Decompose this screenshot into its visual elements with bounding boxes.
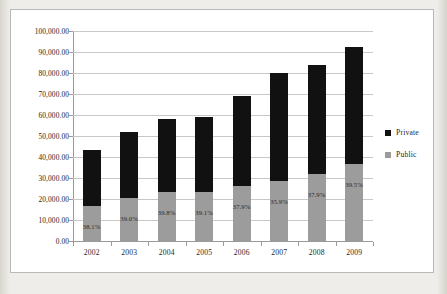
x-axis-tick (223, 242, 224, 246)
gridline (73, 52, 373, 53)
x-axis-tick (186, 242, 187, 246)
gridline (73, 94, 373, 95)
x-axis-tick (73, 242, 74, 246)
bar-group[interactable] (120, 31, 138, 241)
bar-data-label: 39.0% (120, 215, 138, 222)
y-axis-label: 70,000.00 (11, 90, 69, 99)
x-axis-tick (298, 242, 299, 246)
bar-segment-public[interactable] (345, 164, 363, 241)
x-axis-tick (261, 242, 262, 246)
legend-swatch-icon (385, 130, 391, 136)
bar-segment-private[interactable] (120, 132, 138, 199)
bar-segment-private[interactable] (308, 65, 326, 174)
x-axis-tick (111, 242, 112, 246)
y-axis-tick (69, 199, 73, 200)
x-axis-ticks (73, 242, 373, 247)
plot-area: 38.1%39.0%39.8%39.1%37.9%35.9%37.9%39.5% (73, 31, 373, 241)
y-axis-label: 10,000.00 (11, 216, 69, 225)
y-axis-tick (69, 52, 73, 53)
x-axis-tick-labels: 20022003200420052006200720082009 (73, 248, 373, 262)
legend-label: Private (396, 128, 419, 137)
gridline (73, 199, 373, 200)
legend-label: Public (396, 150, 417, 159)
gridline (73, 157, 373, 158)
bar-segment-private[interactable] (83, 150, 101, 207)
gridline (73, 73, 373, 74)
bar-segment-private[interactable] (233, 96, 251, 186)
bar-segment-private[interactable] (195, 117, 213, 192)
y-axis-tick-labels: 100,000.0090,000.0080,000.0070,000.0060,… (11, 31, 69, 241)
bar-data-label: 39.8% (158, 209, 176, 216)
x-axis-label-2007: 2007 (259, 248, 299, 257)
bar-data-label: 35.9% (270, 198, 288, 205)
legend-item-public[interactable]: Public (385, 150, 433, 159)
bar-segment-private[interactable] (158, 119, 176, 192)
bar-data-label: 39.5% (345, 181, 363, 188)
gridline (73, 31, 373, 32)
bar-group[interactable] (345, 31, 363, 241)
x-axis-label-2008: 2008 (297, 248, 337, 257)
legend-swatch-icon (385, 152, 391, 158)
chart-figure: 100,000.0090,000.0080,000.0070,000.0060,… (10, 9, 434, 273)
gridline (73, 115, 373, 116)
y-axis-label: 60,000.00 (11, 111, 69, 120)
y-axis-tick (69, 157, 73, 158)
bar-group[interactable] (83, 31, 101, 241)
legend-item-private[interactable]: Private (385, 128, 433, 137)
gridline (73, 136, 373, 137)
bar-data-label: 37.9% (308, 191, 326, 198)
x-axis-tick (373, 242, 374, 246)
x-axis-label-2005: 2005 (184, 248, 224, 257)
screenshot-page: 100,000.0090,000.0080,000.0070,000.0060,… (0, 0, 447, 294)
bar-group[interactable] (270, 31, 288, 241)
x-axis-label-2009: 2009 (334, 248, 374, 257)
y-axis-label: 90,000.00 (11, 48, 69, 57)
y-axis-label: 80,000.00 (11, 69, 69, 78)
bar-data-label: 37.9% (233, 203, 251, 210)
x-axis-label-2002: 2002 (72, 248, 112, 257)
bar-segment-public[interactable] (308, 174, 326, 241)
x-axis-label-2006: 2006 (222, 248, 262, 257)
bar-group[interactable] (308, 31, 326, 241)
y-axis-label: 0.00 (11, 237, 69, 246)
bar-segment-private[interactable] (270, 73, 288, 181)
y-axis-tick (69, 178, 73, 179)
y-axis-label: 100,000.00 (11, 27, 69, 36)
y-axis-tick (69, 31, 73, 32)
x-axis-label-2003: 2003 (109, 248, 149, 257)
y-axis-tick (69, 94, 73, 95)
chart-legend: PrivatePublic (385, 128, 433, 172)
bar-segment-private[interactable] (345, 47, 363, 164)
y-axis-label: 20,000.00 (11, 195, 69, 204)
gridline (73, 178, 373, 179)
y-axis-tick (69, 115, 73, 116)
y-axis-tick (69, 136, 73, 137)
bar-segment-public[interactable] (233, 186, 251, 241)
x-axis-label-2004: 2004 (147, 248, 187, 257)
bar-segment-public[interactable] (158, 192, 176, 241)
x-axis-tick (148, 242, 149, 246)
y-axis-tick (69, 73, 73, 74)
y-axis-label: 30,000.00 (11, 174, 69, 183)
y-axis-label: 50,000.00 (11, 132, 69, 141)
y-axis-label: 40,000.00 (11, 153, 69, 162)
stacked-bar-chart: 100,000.0090,000.0080,000.0070,000.0060,… (11, 10, 433, 272)
bar-segment-public[interactable] (195, 192, 213, 241)
bar-data-label: 38.1% (83, 223, 101, 230)
bar-data-label: 39.1% (195, 209, 213, 216)
bar-segment-public[interactable] (270, 181, 288, 241)
gridline (73, 220, 373, 221)
x-axis-tick (336, 242, 337, 246)
y-axis-tick (69, 220, 73, 221)
